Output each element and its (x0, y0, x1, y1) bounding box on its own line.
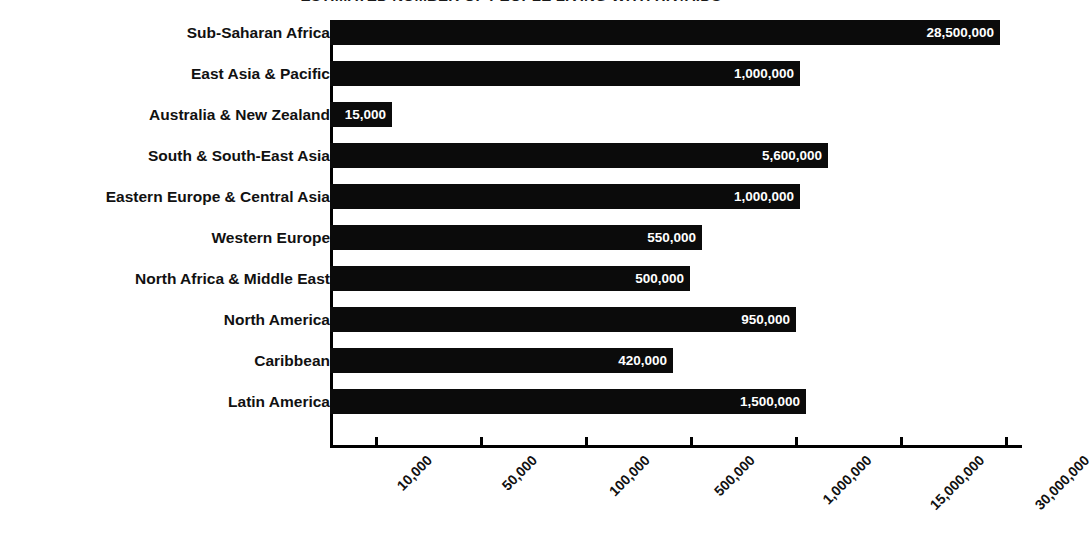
bar-value-label: 420,000 (330, 348, 673, 373)
category-label: Caribbean (10, 348, 330, 373)
chart-row: Caribbean420,000 (330, 348, 1022, 389)
bar-value-label: 1,000,000 (330, 61, 800, 86)
tick-label: 15,000,000 (927, 452, 988, 513)
tick-label: 100,000 (606, 452, 653, 499)
chart-row: Western Europe550,000 (330, 225, 1022, 266)
chart-row: East Asia & Pacific1,000,000 (330, 61, 1022, 102)
bar-value-label: 550,000 (330, 225, 702, 250)
tick-mark (375, 437, 378, 448)
tick-mark (480, 437, 483, 448)
bar-value-label: 1,000,000 (330, 184, 800, 209)
tick-label: 50,000 (499, 452, 541, 494)
category-label: Sub-Saharan Africa (10, 20, 330, 45)
chart-title: ESTIMATED NUMBER OF PEOPLE LIVING WITH H… (0, 0, 1022, 4)
tick-mark (690, 437, 693, 448)
category-label: Eastern Europe & Central Asia (10, 184, 330, 209)
chart-row: North America950,000 (330, 307, 1022, 348)
chart-row: Latin America1,500,000 (330, 389, 1022, 430)
plot-area: Sub-Saharan Africa28,500,000East Asia & … (330, 20, 1022, 445)
category-label: Western Europe (10, 225, 330, 250)
bar-value-label: 500,000 (330, 266, 690, 291)
bar-value-label: 5,600,000 (330, 143, 828, 168)
tick-label: 10,000 (394, 452, 436, 494)
category-label: North Africa & Middle East (10, 266, 330, 291)
tick-mark (585, 437, 588, 448)
chart-row: North Africa & Middle East500,000 (330, 266, 1022, 307)
bar-value-label: 28,500,000 (330, 20, 1000, 45)
bar-value-label: 950,000 (330, 307, 796, 332)
chart-row: Sub-Saharan Africa28,500,000 (330, 20, 1022, 61)
bar-value-label: 1,500,000 (330, 389, 806, 414)
category-label: East Asia & Pacific (10, 61, 330, 86)
tick-label: 1,000,000 (819, 452, 874, 507)
category-label: Latin America (10, 389, 330, 414)
tick-label: 500,000 (711, 452, 758, 499)
tick-mark (900, 437, 903, 448)
category-label: South & South-East Asia (10, 143, 330, 168)
bar-value-label: 15,000 (330, 102, 392, 127)
value-axis-line (330, 445, 1022, 448)
tick-mark (1005, 437, 1008, 448)
chart-row: Eastern Europe & Central Asia1,000,000 (330, 184, 1022, 225)
tick-mark (795, 437, 798, 448)
chart-row: South & South-East Asia5,600,000 (330, 143, 1022, 184)
category-label: North America (10, 307, 330, 332)
category-label: Australia & New Zealand (10, 102, 330, 127)
chart-row: Australia & New Zealand15,000 (330, 102, 1022, 143)
tick-label: 30,000,000 (1032, 452, 1092, 513)
